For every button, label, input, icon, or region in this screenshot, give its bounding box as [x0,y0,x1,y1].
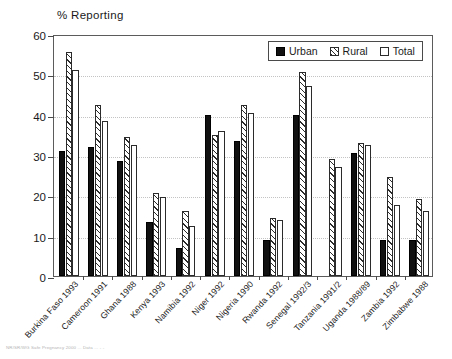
bar-rural [212,135,218,276]
y-axis-tick-label: 60 [33,30,46,42]
legend-item-label: Total [393,45,415,57]
bar-group [200,36,229,276]
bar-group [317,36,346,276]
y-axis-tick-label: 10 [33,232,46,244]
bar-rural [270,218,276,276]
bar-urban [117,161,123,276]
bar-rural [329,159,335,276]
bar-urban [380,240,386,276]
bar-total [394,205,400,276]
bar-urban [88,147,94,276]
x-axis-labels: Burkina Faso 1993Cameroon 1991Ghana 1988… [53,279,433,341]
bar-group [288,36,317,276]
bar-total [306,86,312,276]
bar-group [405,36,434,276]
bar-group [54,36,83,276]
y-axis-tick-label: 30 [33,151,46,163]
y-axis-tick-label: 0 [40,272,46,284]
bar-total [335,167,341,276]
bar-total [131,145,137,276]
bar-urban [234,141,240,276]
bar-urban [146,222,152,276]
y-axis-tick-label: 50 [33,70,46,82]
legend-item-urban[interactable]: Urban [276,45,318,57]
legend-item-label: Rural [343,45,368,57]
bar-rural [153,193,159,276]
bar-rural [95,105,101,276]
bar-rural [358,143,364,276]
bar-urban [263,240,269,276]
bar-urban [59,151,65,276]
legend-item-rural[interactable]: Rural [330,45,368,57]
bar-total [160,197,166,276]
bar-rural [387,177,393,276]
bar-rural [241,105,247,276]
bar-urban [351,153,357,276]
bar-total [218,131,224,276]
bar-total [189,226,195,276]
x-axis-category-label: Burkina Faso 1993 [22,279,80,340]
bar-total [248,113,254,276]
bar-rural [182,211,188,276]
bar-rural [66,52,72,276]
bar-rural [416,199,422,276]
legend-item-total[interactable]: Total [380,45,415,57]
legend-item-label: Urban [289,45,318,57]
chart-legend: UrbanRuralTotal [268,41,423,61]
bar-group [112,36,141,276]
bar-total [72,70,78,276]
empty-swatch-icon [380,47,389,56]
bar-total [365,145,371,276]
bar-urban [409,240,415,276]
y-axis-title: % Reporting [57,9,124,21]
bar-total [277,220,283,276]
bar-urban [293,115,299,276]
bar-group [229,36,258,276]
bar-total [102,121,108,276]
bar-rural [299,72,305,276]
hatched-swatch-icon [330,47,339,56]
bar-urban [205,115,211,276]
bar-group [83,36,112,276]
solid-black-swatch-icon [276,47,285,56]
bar-rural [124,137,130,276]
bar-group [346,36,375,276]
plot-area: 0102030405060 [53,35,433,277]
bar-group [259,36,288,276]
bar-urban [176,248,182,276]
footnote-text: NR/SR/WG Safe Pregnancy 2000 ... Data ..… [6,345,104,350]
bar-total [423,211,429,276]
y-axis-tick-label: 40 [33,111,46,123]
y-axis-tick-label: 20 [33,191,46,203]
bar-group [171,36,200,276]
chart-figure: % Reporting 0102030405060 UrbanRuralTota… [0,0,452,359]
bar-group [376,36,405,276]
bar-group [142,36,171,276]
